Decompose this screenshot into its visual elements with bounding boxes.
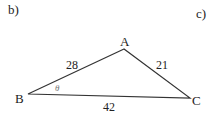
vertex-b-label: B	[15, 92, 24, 105]
side-bc-length: 42	[103, 101, 115, 113]
triangle-figure	[0, 0, 209, 114]
angle-theta-label: θ	[55, 84, 59, 93]
side-ac-length: 21	[156, 59, 168, 71]
vertex-c-label: C	[192, 94, 201, 107]
side-ab-length: 28	[66, 59, 78, 71]
vertex-a-label: A	[120, 35, 129, 48]
